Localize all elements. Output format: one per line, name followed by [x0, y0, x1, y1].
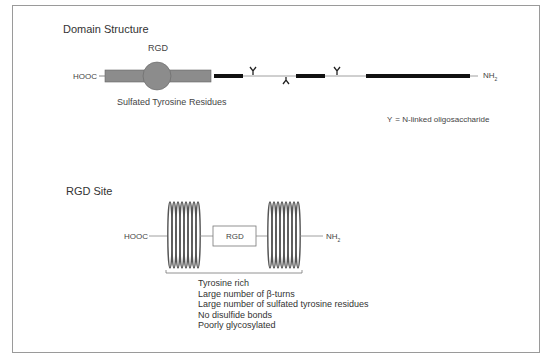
rgd-box-label: RGD: [226, 232, 244, 241]
property-item: Tyrosine rich: [198, 278, 369, 289]
rgd-site-nh2-label: NH2: [326, 232, 340, 243]
property-item: Large number of β-turns: [198, 289, 369, 300]
rgd-site-hooc-label: HOOC: [124, 232, 148, 241]
property-item: Large number of sulfated tyrosine residu…: [198, 299, 369, 310]
property-item: Poorly glycosylated: [198, 320, 369, 331]
properties-list: Tyrosine rich Large number of β-turns La…: [198, 278, 369, 331]
rgd-site-title: RGD Site: [66, 185, 112, 197]
property-item: No disulfide bonds: [198, 310, 369, 321]
